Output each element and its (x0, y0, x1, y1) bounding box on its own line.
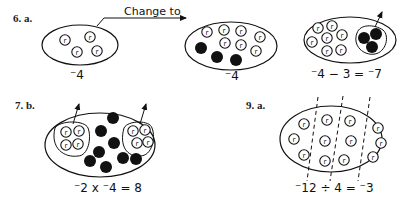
multiplication-set (45, 104, 155, 177)
chip-diagrams: r (0, 0, 410, 201)
set-1-four-red-chips (42, 25, 118, 65)
division-set (280, 96, 386, 181)
set-3-removal (304, 12, 396, 63)
set-2-red-and-black-chips (185, 22, 277, 70)
change-to-arrow-icon (97, 18, 186, 26)
